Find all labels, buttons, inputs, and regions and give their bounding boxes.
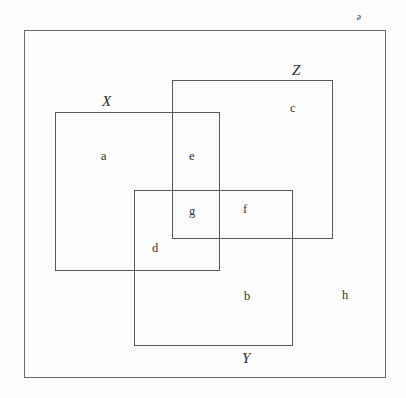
set-diagram-canvas: ᵊ X Z Y a e c g f d b h [0, 0, 406, 398]
set-y-label: Y [242, 351, 250, 366]
region-f-label: f [243, 203, 247, 216]
region-b-label: b [244, 290, 250, 303]
set-y-rectangle [134, 190, 293, 346]
region-a-label: a [101, 150, 107, 163]
set-x-label: X [102, 94, 111, 109]
region-d-label: d [152, 242, 158, 255]
region-h-label: h [342, 289, 348, 302]
region-g-label: g [189, 205, 195, 218]
set-z-label: Z [292, 63, 300, 78]
region-c-label: c [290, 102, 296, 115]
universe-set-label: ᵊ [356, 11, 360, 27]
region-e-label: e [189, 150, 195, 163]
